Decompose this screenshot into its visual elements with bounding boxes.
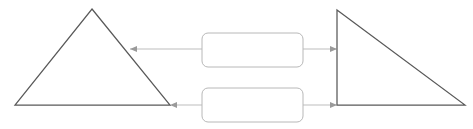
arrowhead-right-into-right-triangle-edge: [330, 46, 337, 52]
right-triangle-shape[interactable]: [337, 10, 465, 105]
bottom-rounded-rectangle[interactable]: [202, 88, 303, 122]
diagram-canvas: [0, 0, 473, 129]
box-group: [202, 33, 303, 122]
diagram-svg: [0, 0, 473, 129]
arrowhead-left-into-left-triangle-base-corner: [170, 102, 177, 108]
arrowhead-right-into-right-triangle-base-corner: [330, 102, 337, 108]
arrowhead-left-into-left-triangle-hypotenuse: [130, 46, 137, 52]
top-rounded-rectangle[interactable]: [202, 33, 303, 67]
left-triangle-shape[interactable]: [15, 9, 170, 105]
